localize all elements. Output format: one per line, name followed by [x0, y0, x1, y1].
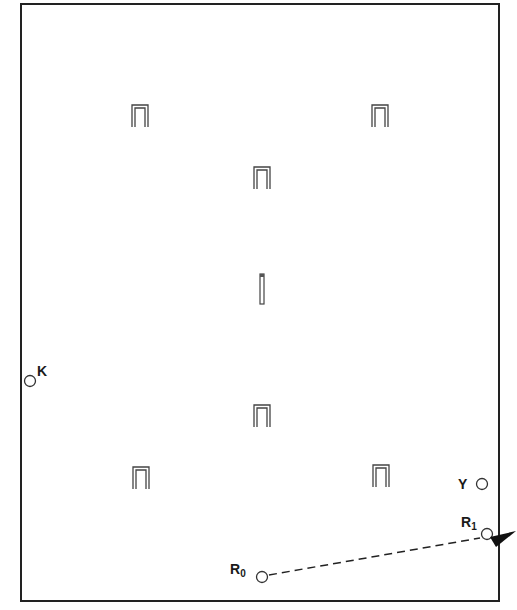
- ball-r0-icon: [257, 572, 268, 583]
- ball-label-r0: R0: [230, 562, 246, 579]
- ball-label-y: Y: [458, 477, 467, 491]
- hoop-icon: [132, 105, 148, 127]
- hoop-icon: [133, 467, 149, 489]
- ball-k-icon: [25, 376, 36, 387]
- shot-path: [269, 538, 480, 575]
- hoop-icon: [254, 167, 270, 189]
- hoop-icon: [373, 465, 389, 487]
- hoop-icon: [254, 405, 270, 427]
- hoop-icon: [372, 105, 388, 127]
- center-peg-icon: [260, 274, 264, 304]
- ball-label-k: K: [37, 364, 47, 378]
- ball-y-icon: [477, 479, 488, 490]
- croquet-diagram: [0, 0, 517, 610]
- arrow-icon: [490, 531, 516, 547]
- ball-label-r1: R1: [461, 515, 477, 532]
